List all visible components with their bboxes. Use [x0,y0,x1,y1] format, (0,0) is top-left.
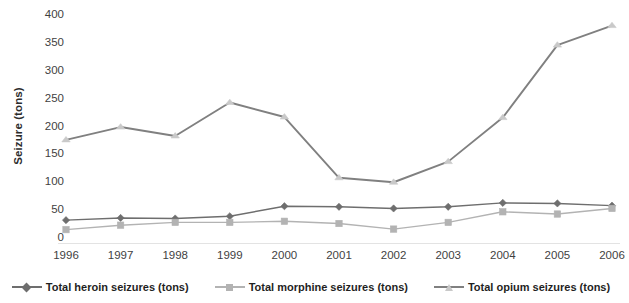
x-tick-label: 2005 [534,249,580,261]
legend-label: Total opium seizures (tons) [468,281,610,293]
legend-swatch-diamond-icon [12,281,42,293]
data-point-marker [608,22,616,27]
data-point-marker [62,217,69,224]
data-point-marker [281,218,287,224]
legend-label: Total morphine seizures (tons) [249,281,408,293]
data-point-marker [281,203,288,210]
x-tick-label: 1999 [207,249,253,261]
data-point-marker [226,213,233,220]
data-point-marker [390,205,397,212]
legend-entry[interactable]: Total opium seizures (tons) [434,281,610,293]
chart-legend: Total heroin seizures (tons)Total morphi… [0,281,622,293]
data-point-marker [500,209,506,215]
data-point-marker [336,220,342,226]
x-tick-label: 2001 [316,249,362,261]
legend-entry[interactable]: Total heroin seizures (tons) [12,281,189,293]
x-tick-label: 2000 [261,249,307,261]
data-point-marker [227,219,233,225]
data-point-marker [172,219,178,225]
x-tick-label: 1997 [98,249,144,261]
x-tick-label: 2002 [371,249,417,261]
legend-label: Total heroin seizures (tons) [46,281,189,293]
legend-swatch-square-icon [215,281,245,293]
data-point-marker [116,124,124,129]
data-point-marker [390,226,396,232]
data-point-marker [226,99,234,104]
data-point-marker [117,222,123,228]
data-point-marker [554,211,560,217]
x-tick-label: 1998 [152,249,198,261]
legend-swatch-triangle-icon [434,281,464,293]
data-point-marker [445,203,452,210]
data-point-marker [609,205,615,211]
x-tick-label: 2006 [589,249,629,261]
series-3 [62,22,616,184]
data-point-marker [499,199,506,206]
x-tick-label: 2003 [425,249,471,261]
x-tick-label: 1996 [43,249,89,261]
data-point-marker [335,203,342,210]
data-point-marker [445,219,451,225]
series-line [66,26,612,183]
data-point-marker [63,226,69,232]
data-point-marker [554,200,561,207]
legend-entry[interactable]: Total morphine seizures (tons) [215,281,408,293]
data-point-marker [117,214,124,221]
x-tick-label: 2004 [480,249,526,261]
